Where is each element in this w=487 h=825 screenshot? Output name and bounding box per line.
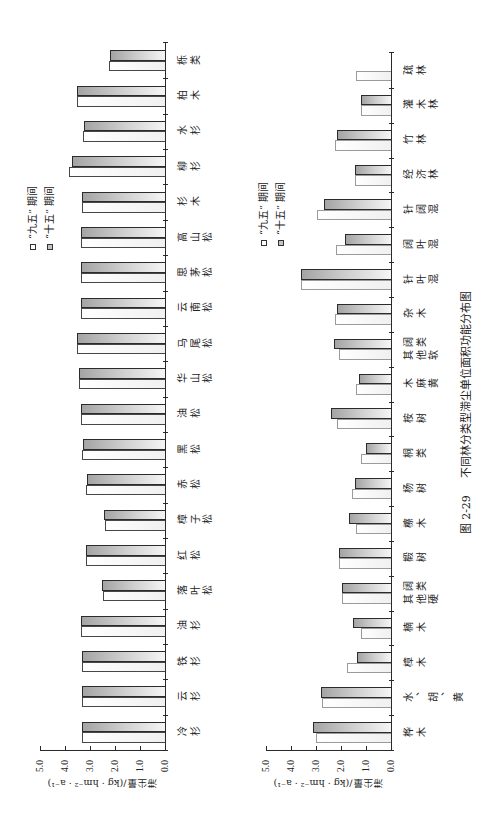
y-tick-mark <box>90 746 91 750</box>
x-category: 针叶混 <box>403 262 466 297</box>
category-group <box>40 255 165 290</box>
x-category: 柳杉 <box>177 149 215 184</box>
legend: “九五” 期间 “十五” 期间 <box>24 186 58 250</box>
category-group <box>266 576 391 611</box>
bar-shiwu <box>337 304 391 315</box>
bar-shiwu <box>359 374 392 385</box>
category-group <box>266 297 391 332</box>
x-category-label: 落叶松 <box>177 584 215 597</box>
legend-label-jiuwu: “九五” 期间 <box>255 182 272 235</box>
x-category-label: 其他软 阔类 <box>403 336 441 362</box>
x-category-label: 桐类 <box>403 447 428 460</box>
bar-jiuwu <box>77 96 165 107</box>
y-tick-mark <box>140 746 141 750</box>
category-group <box>40 149 165 184</box>
bar-shiwu <box>342 583 391 594</box>
x-category: 水杉 <box>177 114 215 149</box>
x-category: 杉木 <box>177 185 215 220</box>
y-tick-label: 5.0 <box>261 760 271 791</box>
y-tick-label: 5.0 <box>35 760 45 791</box>
category-group <box>266 680 391 715</box>
y-tick-label: 0.0 <box>160 760 170 791</box>
category-group <box>40 220 165 255</box>
bar-jiuwu <box>339 349 391 360</box>
bar-jiuwu <box>337 419 391 430</box>
bar-shiwu <box>81 298 165 309</box>
bar-shiwu <box>82 651 165 662</box>
x-category-label: 华山松 <box>177 372 215 385</box>
bar-jiuwu <box>69 167 165 178</box>
bar-jiuwu <box>322 698 391 709</box>
x-category: 经济林 <box>403 158 466 193</box>
y-tick-label: 3.0 <box>85 760 95 791</box>
x-category: 针阔混 <box>403 193 466 228</box>
bar-shiwu <box>331 408 391 419</box>
bar-jiuwu <box>342 593 391 604</box>
bar-shiwu <box>77 86 165 97</box>
category-group <box>40 114 165 149</box>
bar-shiwu <box>110 50 165 61</box>
bar-jiuwu <box>317 210 391 221</box>
bar-jiuwu <box>347 663 391 674</box>
x-category: 桦木 <box>403 715 466 750</box>
x-category: 木麻黄 <box>403 367 466 402</box>
bar-shiwu <box>334 339 392 350</box>
x-category-label: 黑松 <box>177 443 202 456</box>
x-category: 栎类 <box>177 43 215 78</box>
bar-jiuwu <box>361 628 391 639</box>
x-category-label: 桦木 <box>403 726 428 739</box>
x-category-label: 针阔混 <box>403 203 441 216</box>
y-tick-mark <box>115 746 116 750</box>
x-category: 杨树 <box>403 471 466 506</box>
category-group <box>266 611 391 646</box>
x-category-label: 椴树 <box>403 552 428 565</box>
x-category: 高山松 <box>177 220 215 255</box>
legend-item-shiwu: “十五” 期间 <box>41 186 58 250</box>
x-category: 桉树 <box>403 402 466 437</box>
bar-jiuwu <box>82 697 165 708</box>
category-group <box>40 715 165 750</box>
bar-jiuwu <box>81 273 165 284</box>
x-category: 油杉 <box>177 609 215 644</box>
category-group <box>40 43 165 78</box>
x-category-label: 楠木 <box>403 622 428 635</box>
bar-jiuwu <box>81 626 165 637</box>
bar-jiuwu <box>352 489 392 500</box>
x-category-label: 铁杉 <box>177 655 202 668</box>
category-group <box>40 644 165 679</box>
legend-label-shiwu: “十五” 期间 <box>272 182 289 235</box>
y-tick-mark <box>391 746 392 750</box>
x-category: 马尾松 <box>177 326 215 361</box>
bar-shiwu <box>349 513 392 524</box>
x-category-label: 其他硬 阔类 <box>403 580 441 606</box>
x-category-label: 灌木林 <box>403 99 441 112</box>
bar-chart-coniferous: 滞尘量/(kg · hm⁻² · a⁻¹) 冷杉云杉铁杉油杉落叶松红松樟子松赤松… <box>0 0 226 825</box>
bar-shiwu <box>345 234 392 245</box>
x-category: 赤松 <box>177 467 215 502</box>
x-category: 竹林 <box>403 123 466 158</box>
bar-shiwu <box>84 121 165 132</box>
category-group <box>266 541 391 576</box>
figure-caption: 图 2-29 不同林分类型滞尘单位面积功能分布图 <box>459 0 474 825</box>
bar-shiwu <box>353 618 392 629</box>
bar-shiwu <box>355 165 392 176</box>
bar-jiuwu <box>335 140 391 151</box>
y-tick-label: 4.0 <box>60 760 70 791</box>
bar-shiwu <box>355 478 392 489</box>
category-group <box>266 88 391 123</box>
bar-jiuwu <box>82 732 165 743</box>
x-category-label: 经济林 <box>403 169 441 182</box>
bar-shiwu <box>81 262 165 273</box>
x-category-label: 冷杉 <box>177 726 202 739</box>
x-category: 红松 <box>177 538 215 573</box>
x-category: 其他软 阔类 <box>403 332 466 367</box>
category-group <box>266 262 391 297</box>
bar-shiwu <box>357 652 391 663</box>
x-category: 樟子松 <box>177 503 215 538</box>
bar-shiwu <box>72 156 165 167</box>
plot-area <box>40 43 165 750</box>
x-category-label: 思茅松 <box>177 266 215 279</box>
x-category: 灌木林 <box>403 88 466 123</box>
bar-shiwu <box>313 722 391 733</box>
document-page: 滞尘量/(kg · hm⁻² · a⁻¹) 冷杉云杉铁杉油杉落叶松红松樟子松赤松… <box>0 0 487 825</box>
